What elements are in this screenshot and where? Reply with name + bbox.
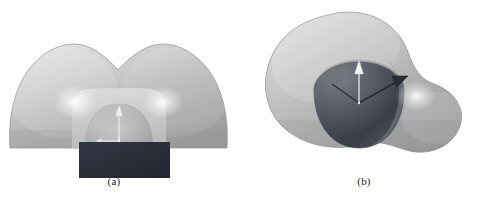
panel-a-canvas [0, 0, 240, 178]
panel-a-caption: (a) [0, 174, 240, 188]
figure-root: (a) [0, 0, 480, 204]
panel-b-highlight-icon [396, 81, 436, 111]
panel-a-highlight-left-icon [53, 85, 97, 119]
panel-a-highlight-right-icon [143, 86, 183, 118]
figure-panel-a: (a) [0, 0, 240, 204]
panel-b-caption: (b) [240, 174, 480, 188]
panel-b-canvas [240, 0, 480, 178]
figure-panel-b: (b) [240, 0, 480, 204]
panel-a-substrate-block [79, 142, 170, 178]
